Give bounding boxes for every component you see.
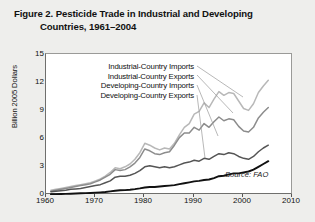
- legend-item-developing-country-imports: Developing-Country Imports: [62, 81, 194, 91]
- chart-legend: Industrial-Country Imports Industrial-Co…: [62, 62, 194, 100]
- y-tick-label: 6: [22, 133, 44, 142]
- x-tick-label: 2010: [271, 196, 311, 205]
- y-tick-label: 12: [22, 77, 44, 86]
- y-tick-label: 3: [22, 161, 44, 170]
- x-tick-label: 2000: [222, 196, 262, 205]
- legend-item-developing-country-exports: Developing-Country Exports: [62, 91, 194, 101]
- source-note: Source: FAO: [225, 170, 268, 179]
- legend-item-industrial-country-imports: Industrial-Country Imports: [62, 62, 194, 72]
- figure-title: Figure 2. Pesticide Trade in Industrial …: [14, 8, 304, 33]
- y-tick-label: 9: [22, 105, 44, 114]
- x-tick-label: 1960: [25, 196, 65, 205]
- figure-container: Figure 2. Pesticide Trade in Industrial …: [0, 0, 315, 222]
- x-tick-label: 1980: [123, 196, 163, 205]
- figure-title-line2: Countries, 1961–2004: [14, 21, 304, 34]
- x-tick-label: 1990: [173, 196, 213, 205]
- y-tick-label: 15: [22, 49, 44, 58]
- figure-title-line1: Figure 2. Pesticide Trade in Industrial …: [14, 8, 253, 19]
- legend-item-industrial-country-exports: Industrial-Country Exports: [62, 72, 194, 82]
- y-axis-tick-labels: 15 12 9 6 3 0: [18, 0, 44, 222]
- x-tick-label: 1970: [74, 196, 114, 205]
